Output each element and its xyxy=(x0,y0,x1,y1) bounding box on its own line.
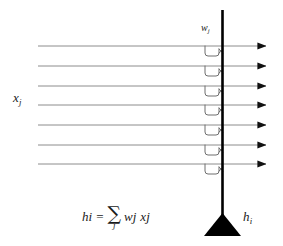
weight-label-wj: wj xyxy=(201,23,210,35)
synapse-hook-5 xyxy=(205,125,223,135)
neuron-diagram: xj wj hi hi = ∑ j wj xj xyxy=(0,0,283,246)
input-lines-group xyxy=(38,46,266,164)
output-label-hi: hi xyxy=(243,210,252,226)
synapse-hook-7 xyxy=(205,164,223,174)
sigma-icon: ∑ xyxy=(107,205,121,221)
formula-term-w-base: w xyxy=(124,209,133,224)
input-label-xj: xj xyxy=(13,91,21,107)
formula-term-w: wj xyxy=(124,209,140,225)
formula-lhs: hi xyxy=(82,209,92,225)
output-label-base: h xyxy=(243,209,250,224)
formula-term-x: xj xyxy=(140,209,153,225)
synapse-hooks-group xyxy=(205,46,223,174)
formula-term-x-subscript: j xyxy=(146,209,150,224)
sigma-index: j xyxy=(113,222,116,230)
input-label-base: x xyxy=(13,90,19,105)
input-label-subscript: j xyxy=(19,97,22,107)
formula-sigma-group: ∑ j xyxy=(107,205,121,230)
formula-term-w-subscript: j xyxy=(133,209,137,224)
ground-triangle-icon xyxy=(204,213,241,236)
summation-formula: hi = ∑ j wj xj xyxy=(82,205,154,230)
synapse-hook-4 xyxy=(205,105,223,115)
output-label-subscript: i xyxy=(250,216,253,226)
weight-label-base: w xyxy=(201,22,208,33)
synapse-hook-1 xyxy=(205,46,223,56)
synapse-hook-6 xyxy=(205,145,223,155)
formula-equals: = xyxy=(92,209,106,225)
weight-label-subscript: j xyxy=(208,27,210,34)
synapse-hook-3 xyxy=(205,86,223,96)
synapse-hook-2 xyxy=(205,66,223,76)
